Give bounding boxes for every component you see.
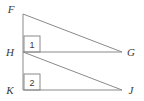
vertex-label-J: J (129, 84, 135, 96)
vertex-label-F: F (7, 3, 15, 15)
angle-1-label: 1 (29, 40, 34, 50)
segment-FG (23, 14, 122, 52)
angle-mark-group: 1 2 (24, 36, 40, 90)
vertex-label-H: H (5, 46, 15, 58)
angle-2-label: 2 (29, 78, 34, 88)
vertex-label-K: K (5, 84, 14, 96)
segment-HJ (23, 52, 122, 90)
geometry-figure: 1 2 F H K G J (0, 0, 144, 101)
geometry-canvas: 1 2 F H K G J (0, 0, 144, 101)
vertex-label-G: G (127, 46, 135, 58)
